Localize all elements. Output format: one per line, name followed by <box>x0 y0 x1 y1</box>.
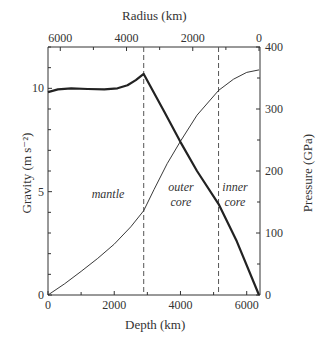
y-axis-title: Gravity (m s⁻²) <box>19 118 35 228</box>
y2-tick-label: 300 <box>265 102 283 116</box>
x-tick-label: 6000 <box>235 298 259 312</box>
x2-tick-label: 2000 <box>181 31 205 45</box>
x2-tick-label: 4000 <box>115 31 139 45</box>
region-label-mantle: mantle <box>78 187 138 202</box>
x-tick-label: 2000 <box>102 298 126 312</box>
x-tick-label: 0 <box>45 298 51 312</box>
outer-core-label-2: core <box>171 195 192 209</box>
x-axis-title: Depth (km) <box>125 317 185 333</box>
x-tick-label: 4000 <box>168 298 192 312</box>
outer-core-label-1: outer <box>168 180 193 194</box>
x2-axis-title: Radius (km) <box>122 8 187 24</box>
y2-tick-label: 200 <box>265 164 283 178</box>
y-tick-label: 10 <box>32 81 44 95</box>
inner-core-label-1: inner <box>222 180 247 194</box>
y2-tick-label: 400 <box>265 40 283 54</box>
y-tick-label: 0 <box>38 288 44 302</box>
inner-core-label-2: core <box>225 195 246 209</box>
x2-tick-label: 6000 <box>48 31 72 45</box>
y-tick-label: 5 <box>38 185 44 199</box>
x2-tick-label: 0 <box>256 31 262 45</box>
earth-interior-chart: 0200040006000600040002000005100100200300… <box>0 0 316 344</box>
y2-axis-title: Pressure (GPa) <box>300 118 316 228</box>
region-label-outer-core: outer core <box>151 180 211 210</box>
region-label-inner-core: inner core <box>210 180 260 210</box>
y2-tick-label: 0 <box>265 288 271 302</box>
y2-tick-label: 100 <box>265 226 283 240</box>
mantle-label: mantle <box>92 187 125 201</box>
